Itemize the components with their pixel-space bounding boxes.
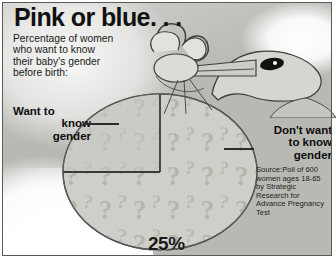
callout-left-line3: gender [53,130,91,142]
leader-line-left [86,123,119,125]
callout-right-line3: gender [294,149,332,161]
bundle-fold-2 [184,80,186,114]
callout-want-to-know: Want to know gender [13,105,91,142]
callout-right-line1: Don't want [274,124,332,136]
callout-left-line1: Want to [13,105,91,117]
page-title: Pink or blue. . . [14,4,182,30]
bundle-fold-1 [164,80,178,114]
leader-line-right [224,148,254,150]
deck-text: Percentage of women who want to know the… [13,33,117,79]
bundle-fold-3 [190,80,212,110]
callout-right-line2: to know [289,136,332,148]
bundle-body [154,54,198,82]
infographic-pink-or-blue: ? ? 25% 75% [0,0,336,262]
stork-eye-glint [273,61,277,65]
pie-label-25: 25% [148,233,185,255]
bundle-knot-left [151,32,180,52]
source-note: Source:Poll of 600 women ages 18-65 by S… [256,166,330,218]
callout-dont-want-to-know: Don't want to know gender [256,124,332,161]
